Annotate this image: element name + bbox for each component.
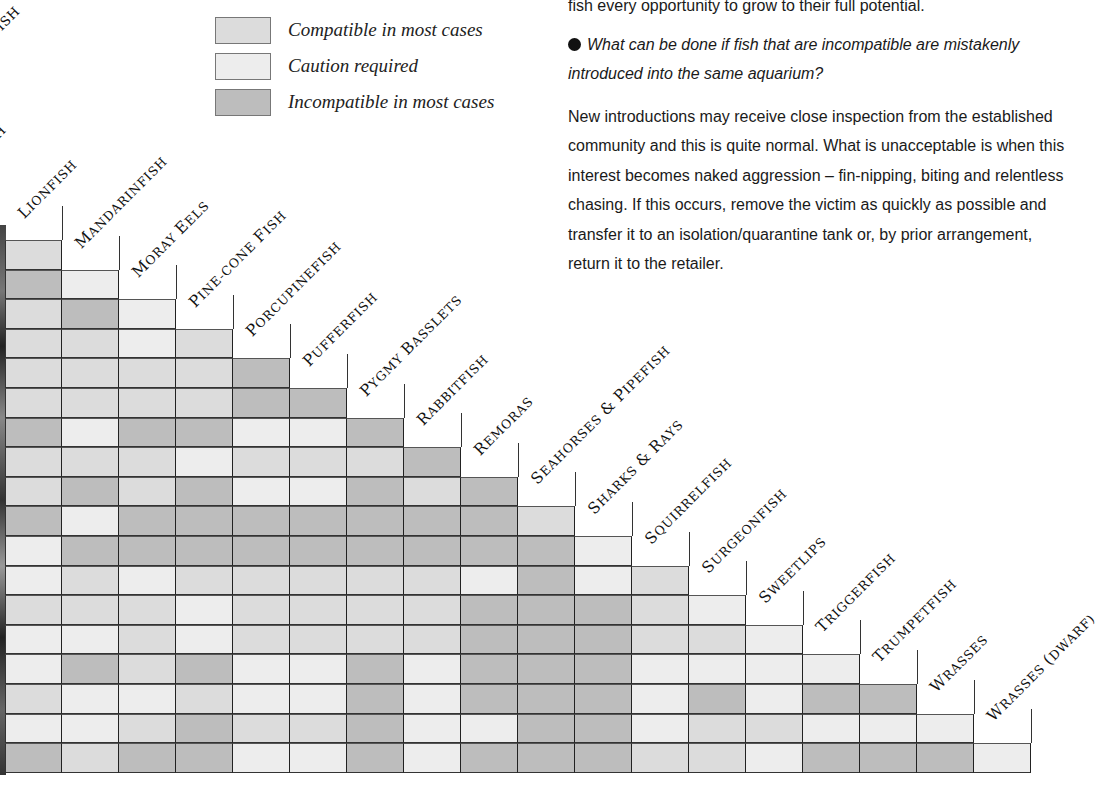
grid-cell — [233, 595, 290, 625]
grid-cell — [62, 418, 119, 448]
grid-cell — [176, 358, 233, 388]
grid-cell — [233, 743, 290, 773]
grid-cell — [404, 566, 461, 596]
grid-cell — [803, 714, 860, 744]
grid-cell — [119, 536, 176, 566]
column-divider — [632, 502, 633, 536]
grid-cell — [461, 595, 518, 625]
grid-cell — [5, 684, 62, 714]
grid-cell — [518, 595, 575, 625]
column-divider — [62, 206, 63, 240]
grid-cell — [62, 684, 119, 714]
grid-cell — [518, 625, 575, 655]
grid-cell — [461, 625, 518, 655]
grid-cell — [461, 654, 518, 684]
column-divider — [689, 532, 690, 566]
grid-cell — [404, 654, 461, 684]
grid-cell — [5, 654, 62, 684]
grid-cell — [62, 447, 119, 477]
grid-cell — [518, 684, 575, 714]
grid-cell — [461, 506, 518, 536]
grid-cell — [461, 684, 518, 714]
grid-cell — [119, 714, 176, 744]
grid-cell — [746, 743, 803, 773]
grid-cell — [233, 418, 290, 448]
legend-swatch-caution — [215, 53, 271, 80]
grid-cell — [233, 714, 290, 744]
partial-column-label: SH — [0, 122, 9, 148]
grid-cell — [119, 477, 176, 507]
grid-cell — [62, 270, 119, 300]
grid-cell — [62, 329, 119, 359]
column-divider — [404, 384, 405, 418]
grid-cell — [176, 654, 233, 684]
grid-cell — [746, 684, 803, 714]
grid-cell — [62, 625, 119, 655]
column-label: Rabbitfish — [413, 350, 492, 429]
grid-cell — [62, 743, 119, 773]
grid-cell — [233, 566, 290, 596]
grid-cell — [860, 714, 917, 744]
grid-cell — [347, 684, 404, 714]
grid-cell — [176, 536, 233, 566]
grid-cell — [632, 684, 689, 714]
grid-cell — [233, 684, 290, 714]
column-divider — [575, 472, 576, 506]
column-label: Moray Eels — [128, 197, 213, 282]
grid-cell — [176, 714, 233, 744]
grid-cell — [119, 299, 176, 329]
grid-cell — [176, 388, 233, 418]
grid-cell — [5, 447, 62, 477]
grid-cell — [347, 654, 404, 684]
column-divider — [290, 324, 291, 358]
grid-cell — [347, 625, 404, 655]
column-label: Seahorses & Pipefish — [527, 342, 674, 489]
column-label: Lionfish — [14, 156, 80, 222]
grid-cell — [176, 625, 233, 655]
column-label: Sharks & Rays — [584, 415, 687, 518]
grid-cell — [119, 358, 176, 388]
grid-cell — [404, 743, 461, 773]
grid-cell — [689, 595, 746, 625]
grid-cell — [347, 447, 404, 477]
grid-cell — [233, 447, 290, 477]
grid-cell — [290, 536, 347, 566]
grid-cell — [404, 625, 461, 655]
grid-cell — [689, 684, 746, 714]
grid-cell — [347, 536, 404, 566]
question-heading: What can be done if fish that are incomp… — [568, 30, 1068, 89]
grid-cell — [176, 566, 233, 596]
legend-label: Caution required — [288, 55, 418, 77]
grid-cell — [632, 743, 689, 773]
grid-cell — [119, 595, 176, 625]
column-label: Trumpetfish — [869, 575, 960, 666]
grid-cell — [575, 595, 632, 625]
grid-cell — [5, 388, 62, 418]
grid-cell — [575, 566, 632, 596]
grid-cell — [347, 477, 404, 507]
grid-cell — [347, 595, 404, 625]
grid-cell — [518, 714, 575, 744]
column-label: Wrasses (Dwarf) — [983, 610, 1098, 725]
grid-cell — [5, 506, 62, 536]
grid-cell — [5, 743, 62, 773]
column-label: Pufferfish — [299, 288, 381, 370]
legend-swatch-incompatible — [215, 89, 271, 116]
grid-cell — [575, 714, 632, 744]
grid-cell — [62, 654, 119, 684]
column-divider — [860, 620, 861, 654]
column-label: Mandarinfish — [71, 152, 171, 252]
grid-cell — [5, 240, 62, 270]
grid-cell — [404, 536, 461, 566]
grid-cell — [518, 566, 575, 596]
grid-cell — [176, 506, 233, 536]
grid-cell — [518, 654, 575, 684]
grid-cell — [290, 388, 347, 418]
column-divider — [233, 295, 234, 329]
grid-cell — [62, 506, 119, 536]
grid-cell — [5, 358, 62, 388]
grid-cell — [5, 566, 62, 596]
grid-cell — [290, 714, 347, 744]
grid-cell — [62, 477, 119, 507]
grid-cell — [233, 625, 290, 655]
